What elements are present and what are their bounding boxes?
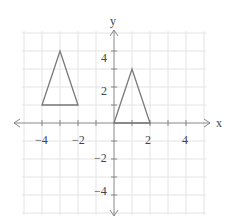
- x-tick-label: 2: [145, 133, 151, 147]
- y-axis-label: y: [110, 14, 116, 28]
- coordinate-plane: x y −4 −2 2 4 4 2 −2 −4: [0, 0, 233, 224]
- x-tick-label: −4: [35, 133, 48, 147]
- axes: [14, 30, 210, 216]
- x-axis-label: x: [216, 116, 222, 130]
- y-tick-label: −4: [94, 184, 107, 198]
- x-tick-label: −2: [72, 133, 85, 147]
- x-tick-label: 4: [182, 133, 188, 147]
- y-tick-label: 2: [101, 84, 107, 98]
- y-tick-label: −2: [94, 151, 107, 165]
- y-tick-label: 4: [101, 51, 107, 65]
